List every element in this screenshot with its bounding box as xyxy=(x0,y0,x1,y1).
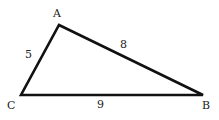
vertex-label-a: A xyxy=(52,7,62,20)
triangle-abc xyxy=(21,25,203,95)
side-label-ab: 8 xyxy=(120,38,127,51)
triangle-diagram: A B C 5 8 9 xyxy=(0,0,219,120)
vertex-label-c: C xyxy=(7,99,15,112)
side-label-ac: 5 xyxy=(25,48,32,61)
vertex-label-b: B xyxy=(202,99,210,112)
side-label-cb: 9 xyxy=(97,98,104,111)
